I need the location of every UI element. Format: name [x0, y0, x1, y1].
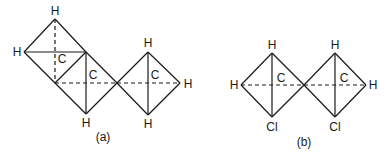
atom-label-cl: Cl [329, 120, 340, 134]
edge [55, 19, 86, 52]
atom-label-h: H [268, 38, 277, 52]
edge [86, 83, 117, 114]
panel-caption: (a) [96, 130, 111, 144]
atom-label-h: H [331, 38, 340, 52]
tetrahedra-diagram: H H C C H H C H H (a) H H [0, 0, 386, 155]
tetrahedron-b2 [304, 53, 366, 117]
edge [304, 85, 335, 117]
panel-b: H H C Cl H C H Cl (b) [230, 38, 378, 149]
edge [148, 83, 180, 115]
atom-label-c: C [277, 71, 286, 85]
atom-label-c: C [58, 52, 67, 66]
edge [241, 85, 272, 117]
edge [241, 53, 272, 85]
atom-label-h: H [82, 116, 91, 130]
tetrahedron-a1 [24, 19, 86, 83]
atom-label-h: H [144, 117, 153, 131]
edge [24, 19, 55, 52]
atom-label-h: H [144, 36, 153, 50]
edge [55, 83, 86, 114]
edge [304, 53, 335, 85]
atom-label-cl: Cl [266, 120, 277, 134]
atom-label-h: H [230, 78, 239, 92]
atom-label-c: C [89, 68, 98, 82]
tetrahedron-a3 [117, 52, 180, 115]
tetrahedron-b1 [241, 53, 304, 117]
edge [335, 85, 366, 117]
atom-label-h: H [369, 78, 378, 92]
atom-label-c: C [151, 68, 160, 82]
panel-caption: (b) [297, 135, 312, 149]
edge [272, 85, 304, 117]
atom-label-h: H [13, 45, 22, 59]
edge [24, 52, 55, 83]
edge [117, 83, 148, 115]
panel-a: H H C C H H C H H (a) [13, 4, 193, 144]
atom-label-h: H [51, 4, 60, 18]
edge [117, 52, 148, 83]
atom-label-h: H [184, 77, 193, 91]
atom-label-c: C [340, 71, 349, 85]
